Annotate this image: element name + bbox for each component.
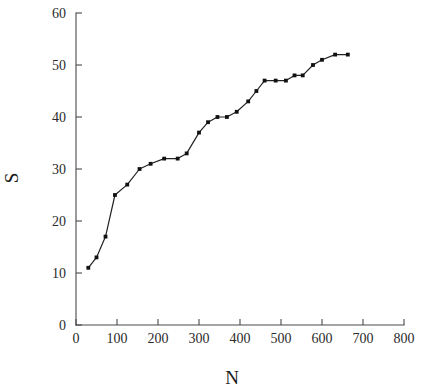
y-tick-label: 10 <box>52 266 66 281</box>
x-axis-tick-labels: 0100200300400500600700800 <box>73 331 415 346</box>
data-point-marker <box>206 120 210 124</box>
y-tick-label: 30 <box>52 162 66 177</box>
data-point-marker <box>197 131 201 135</box>
data-point-marker <box>346 53 350 57</box>
data-point-marker <box>246 100 250 104</box>
axis-ticks <box>76 13 404 325</box>
data-point-marker <box>284 79 288 83</box>
x-tick-label: 600 <box>312 331 333 346</box>
x-tick-label: 100 <box>107 331 128 346</box>
data-point-marker <box>311 63 315 67</box>
x-tick-label: 300 <box>189 331 210 346</box>
y-axis-tick-labels: 0102030405060 <box>52 6 66 333</box>
y-tick-label: 50 <box>52 58 66 73</box>
data-point-marker <box>113 193 117 197</box>
x-tick-label: 400 <box>230 331 251 346</box>
data-point-marker <box>216 115 220 119</box>
data-point-marker <box>138 167 142 171</box>
data-point-marker <box>320 58 324 62</box>
data-point-marker <box>95 256 99 260</box>
data-point-marker <box>149 162 153 166</box>
y-tick-label: 60 <box>52 6 66 21</box>
data-point-marker <box>86 266 90 270</box>
data-point-marker <box>176 157 180 161</box>
data-point-marker <box>255 89 259 93</box>
data-markers <box>86 53 349 270</box>
x-axis-title: N <box>225 367 239 388</box>
data-point-marker <box>301 74 305 78</box>
x-tick-label: 500 <box>271 331 292 346</box>
x-tick-label: 0 <box>73 331 80 346</box>
x-tick-label: 800 <box>394 331 415 346</box>
series-line <box>88 55 348 268</box>
data-point-marker <box>235 110 239 114</box>
data-point-marker <box>333 53 337 57</box>
data-point-marker <box>293 74 297 78</box>
data-point-marker <box>225 115 229 119</box>
data-point-marker <box>263 79 267 83</box>
data-point-marker <box>274 79 278 83</box>
data-point-marker <box>125 183 129 187</box>
data-series <box>88 55 348 268</box>
data-point-marker <box>185 152 189 156</box>
axes <box>76 13 404 325</box>
y-tick-label: 20 <box>52 214 66 229</box>
y-tick-label: 0 <box>59 318 66 333</box>
line-chart: 0100200300400500600700800 0102030405060 … <box>0 0 423 391</box>
y-axis-title: S <box>1 173 22 184</box>
y-tick-label: 40 <box>52 110 66 125</box>
data-point-marker <box>162 157 166 161</box>
x-tick-label: 200 <box>148 331 169 346</box>
chart-figure: 0100200300400500600700800 0102030405060 … <box>0 0 423 391</box>
data-point-marker <box>104 235 108 239</box>
x-tick-label: 700 <box>353 331 374 346</box>
